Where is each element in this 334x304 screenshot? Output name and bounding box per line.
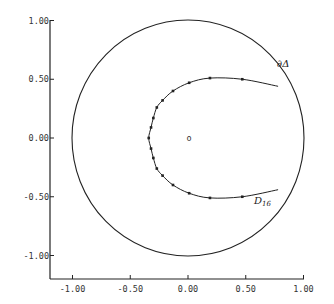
x-tick-label: 0.50 <box>236 284 256 294</box>
boundary-label: ∂Δ <box>277 58 289 69</box>
d16-marker <box>209 77 212 80</box>
y-tick-label: -1.00 <box>23 251 49 261</box>
d16-marker <box>188 81 191 84</box>
axes <box>50 20 304 279</box>
d16-marker <box>150 126 153 129</box>
d16-curve <box>149 78 278 198</box>
origin-marker: o <box>186 133 191 143</box>
d16-marker <box>156 167 159 170</box>
d16-marker <box>147 137 150 140</box>
d16-marker <box>161 99 164 102</box>
plot-area: -1.00-0.500.000.501.00 1.000.500.00-0.50… <box>0 0 334 304</box>
d16-marker <box>152 157 155 160</box>
d16-marker <box>150 147 153 150</box>
x-tick-label: -1.00 <box>60 284 86 294</box>
d16-marker <box>161 174 164 177</box>
d16-marker <box>241 78 244 81</box>
d16-marker <box>172 184 175 187</box>
d16-label: D16 <box>253 195 271 208</box>
y-tick-label: -0.50 <box>23 192 49 202</box>
d16-marker <box>156 106 159 109</box>
y-tick-label: 0.00 <box>29 133 49 143</box>
d16-marker <box>188 192 191 195</box>
d16-marker <box>241 195 244 198</box>
x-tick-label: 0.00 <box>178 284 198 294</box>
x-tick-label: 1.00 <box>293 284 313 294</box>
d16-marker <box>172 90 175 93</box>
d16-markers <box>147 77 243 199</box>
y-tick-label: 0.50 <box>29 74 49 84</box>
x-tick-label: -0.50 <box>117 284 143 294</box>
d16-marker <box>209 197 212 200</box>
d16-marker <box>152 117 155 120</box>
x-ticks: -1.00-0.500.000.501.00 <box>60 275 314 294</box>
y-tick-label: 1.00 <box>29 16 49 26</box>
